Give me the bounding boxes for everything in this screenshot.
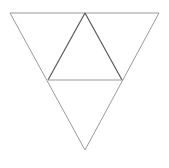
nested-triangles-diagram [0, 0, 169, 168]
canvas-background [0, 0, 169, 168]
figure-canvas [0, 0, 169, 168]
